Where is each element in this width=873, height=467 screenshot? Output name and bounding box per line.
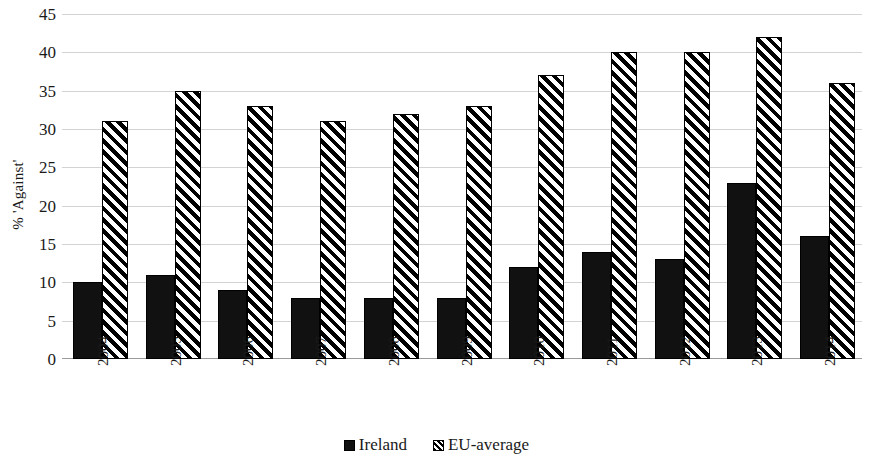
legend-label: Ireland [359, 435, 407, 455]
y-axis-tick-label: 15 [14, 236, 56, 253]
x-axis-tick-label-2007: 2007 [313, 306, 330, 366]
x-axis-tick-label-2010: 2010 [531, 306, 548, 366]
hatched-square-icon [433, 440, 444, 451]
y-axis-tick-label: 10 [14, 274, 56, 291]
x-axis-tick-label-2014: 2014 [822, 306, 839, 366]
solid-square-icon [344, 440, 355, 451]
x-axis-tick-label-2013: 2013 [749, 306, 766, 366]
y-axis-tick-label: 20 [14, 197, 56, 214]
chart-legend: IrelandEU-average [0, 435, 873, 455]
y-axis-tick-label: 30 [14, 121, 56, 138]
y-axis-tick-label: 45 [14, 6, 56, 23]
x-axis-tick-label-2004: 2004 [95, 306, 112, 366]
y-axis-tick-label: 35 [14, 82, 56, 99]
x-axis-tick-label-2006: 2006 [240, 306, 257, 366]
y-axis-tick-label: 0 [14, 351, 56, 368]
legend-item-eu-average[interactable]: EU-average [433, 435, 529, 455]
x-axis-tick-label-2009: 2009 [459, 306, 476, 366]
y-axis-tick-label: 25 [14, 159, 56, 176]
bar-chart: % 'Against' 051015202530354045 200420052… [0, 0, 873, 467]
x-axis-tick-label-2012: 2012 [677, 306, 694, 366]
x-axis-tick-label-2008: 2008 [386, 306, 403, 366]
y-axis-tick-label: 5 [14, 312, 56, 329]
legend-label: EU-average [448, 435, 529, 455]
x-axis-tick-label-2011: 2011 [604, 306, 621, 366]
y-axis-tick-label: 40 [14, 44, 56, 61]
legend-item-ireland[interactable]: Ireland [344, 435, 407, 455]
x-axis-tick-label-2005: 2005 [168, 306, 185, 366]
